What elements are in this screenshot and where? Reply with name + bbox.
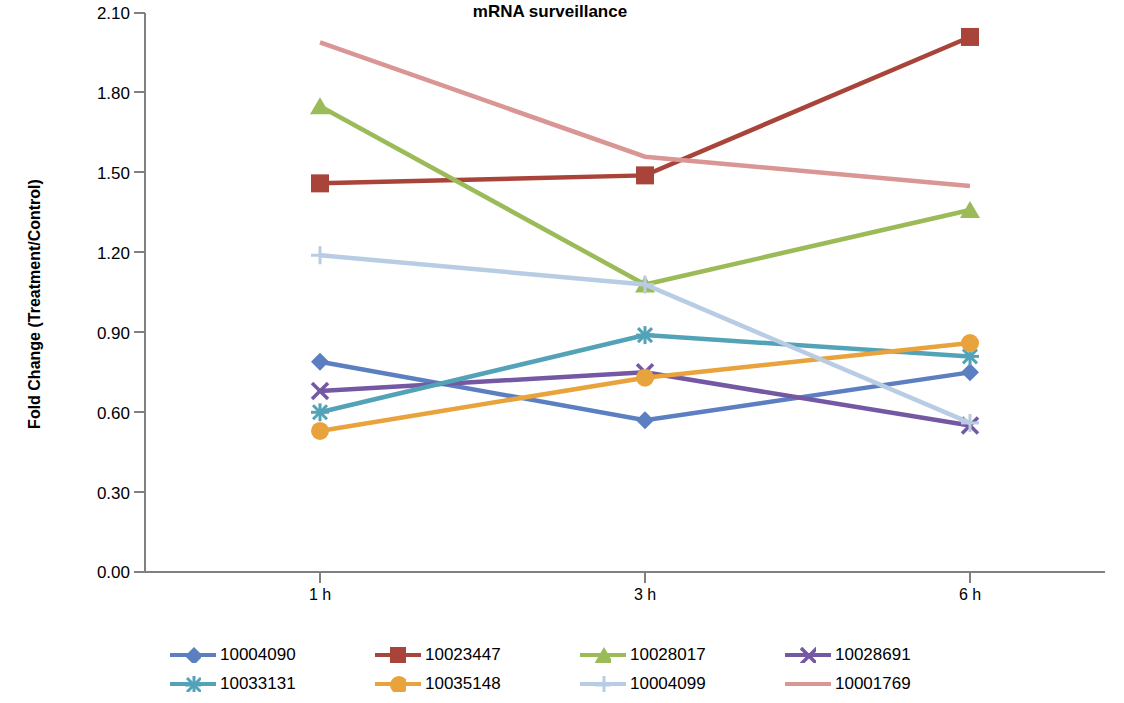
data-point-circle xyxy=(390,676,406,692)
legend-label: 10028017 xyxy=(630,645,706,665)
data-point-square xyxy=(311,174,329,192)
legend-label: 10023447 xyxy=(425,645,501,665)
legend-marker-square-icon xyxy=(390,647,406,663)
data-point-star xyxy=(311,403,329,421)
plot-area xyxy=(0,0,1124,703)
chart-legend: 1000409010023447100280171002869110033131… xyxy=(170,640,990,698)
legend-swatch-circle-icon xyxy=(375,675,421,693)
y-axis-ticks xyxy=(134,13,145,572)
series-10023447 xyxy=(311,28,979,192)
legend-line xyxy=(785,682,831,686)
data-point-diamond xyxy=(311,353,329,371)
data-point-square xyxy=(636,166,654,184)
data-point-diamond xyxy=(185,647,201,663)
chart-container: mRNA surveillance Fold Change (Treatment… xyxy=(0,0,1124,703)
data-point-plus xyxy=(961,414,979,432)
legend-label: 10004099 xyxy=(630,674,706,694)
data-point-plus xyxy=(595,676,611,692)
series-line xyxy=(320,106,970,284)
legend-item-10028691[interactable]: 10028691 xyxy=(785,640,990,669)
data-point-circle xyxy=(961,334,979,352)
legend-item-10035148[interactable]: 10035148 xyxy=(375,669,580,698)
legend-label: 10004090 xyxy=(220,645,296,665)
legend-marker-triangle-icon xyxy=(595,647,611,663)
data-point-square xyxy=(961,28,979,46)
legend-marker-star-icon xyxy=(185,676,201,692)
legend-label: 10001769 xyxy=(835,674,911,694)
legend-item-10004099[interactable]: 10004099 xyxy=(580,669,785,698)
data-series-layer xyxy=(310,28,980,440)
legend-swatch-none-icon xyxy=(785,675,831,693)
legend-swatch-diamond-icon xyxy=(170,646,216,664)
legend-marker-x-icon xyxy=(800,647,816,663)
legend-label: 10028691 xyxy=(835,645,911,665)
data-point-square xyxy=(390,647,406,663)
legend-swatch-x-icon xyxy=(785,646,831,664)
data-point-star xyxy=(636,326,654,344)
legend-swatch-square-icon xyxy=(375,646,421,664)
legend-item-10001769[interactable]: 10001769 xyxy=(785,669,990,698)
legend-label: 10033131 xyxy=(220,674,296,694)
data-point-triangle xyxy=(310,97,330,114)
data-point-circle xyxy=(636,369,654,387)
legend-marker-plus-icon xyxy=(595,676,611,692)
data-point-star xyxy=(185,676,201,692)
data-point-circle xyxy=(311,422,329,440)
x-axis-ticks xyxy=(320,572,970,583)
legend-item-10028017[interactable]: 10028017 xyxy=(580,640,785,669)
data-point-x xyxy=(801,648,816,663)
legend-item-10004090[interactable]: 10004090 xyxy=(170,640,375,669)
series-line xyxy=(320,42,970,186)
legend-marker-diamond-icon xyxy=(185,647,201,663)
legend-item-10033131[interactable]: 10033131 xyxy=(170,669,375,698)
legend-swatch-star-icon xyxy=(170,675,216,693)
legend-swatch-triangle-icon xyxy=(580,646,626,664)
legend-swatch-plus-icon xyxy=(580,675,626,693)
data-point-diamond xyxy=(636,411,654,429)
legend-label: 10035148 xyxy=(425,674,501,694)
data-point-triangle xyxy=(595,647,611,663)
data-point-plus xyxy=(311,246,329,264)
axis-lines xyxy=(134,13,1105,572)
series-10001769 xyxy=(320,42,970,186)
data-point-diamond xyxy=(961,363,979,381)
legend-marker-circle-icon xyxy=(390,676,406,692)
legend-item-10023447[interactable]: 10023447 xyxy=(375,640,580,669)
